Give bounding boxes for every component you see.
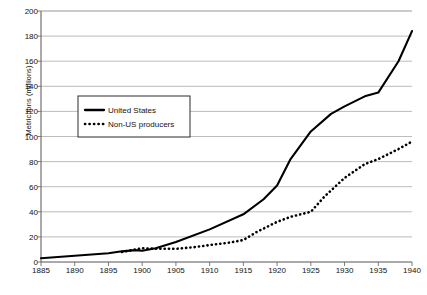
y-axis-tick-labels: 020406080100120140160180200: [8, 0, 38, 295]
y-tick-label: 120: [12, 107, 38, 116]
legend-label: United States: [108, 106, 156, 115]
legend-label: Non-US producers: [108, 120, 174, 129]
y-tick-label: 60: [12, 182, 38, 191]
chart-legend: United StatesNon-US producers: [78, 96, 190, 137]
y-tick-label: 180: [12, 32, 38, 41]
y-tick-label: 140: [12, 82, 38, 91]
series-line: [41, 31, 412, 258]
y-tick-label: 200: [12, 7, 38, 16]
y-tick-label: 20: [12, 232, 38, 241]
x-tick-label: 1940: [392, 266, 427, 275]
y-tick-label: 160: [12, 57, 38, 66]
plot-area: United StatesNon-US producers: [0, 0, 427, 295]
y-tick-label: 100: [12, 132, 38, 141]
y-tick-label: 40: [12, 207, 38, 216]
chart-container: Metric tons (millions) 02040608010012014…: [0, 0, 427, 295]
y-axis-ticks: [38, 11, 42, 262]
y-tick-label: 80: [12, 157, 38, 166]
data-series-layer: [41, 31, 412, 258]
